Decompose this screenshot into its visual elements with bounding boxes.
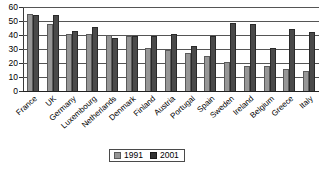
x-label-slot: Belgium [260, 92, 280, 147]
y-tick-label: 50 [9, 17, 18, 26]
bar-group [240, 7, 260, 91]
x-label-slot: Austria [161, 92, 181, 147]
bar-group [181, 7, 201, 91]
bar-group [220, 7, 240, 91]
y-axis: 6050403020100 [0, 0, 23, 98]
bar-2001-portugal [191, 46, 197, 91]
y-tick-label: 20 [9, 59, 18, 68]
bar-2001-belgium [270, 48, 276, 91]
bar-2001-austria [171, 34, 177, 91]
bar-2001-ireland [250, 24, 256, 91]
x-label-slot: Ireland [240, 92, 260, 147]
bar-group [23, 7, 43, 91]
bar-2001-denmark [132, 36, 138, 91]
bars-layer [23, 7, 319, 91]
bar-2001-finland [151, 36, 157, 91]
bar-group [141, 7, 161, 91]
x-label-slot: France [23, 92, 43, 147]
bar-2001-spain [210, 36, 216, 91]
x-label-slot: Italy [299, 92, 319, 147]
bar-2001-italy [309, 32, 315, 91]
bar-2001-sweden [230, 23, 236, 91]
legend-swatch-icon [114, 152, 121, 159]
bar-group [299, 7, 319, 91]
bar-chart: 6050403020100 FranceUKGermanyLuxembourgN… [0, 0, 322, 170]
bar-group [280, 7, 300, 91]
legend-label: 1991 [124, 151, 143, 160]
bar-2001-france [33, 15, 39, 91]
chart-legend: 19912001 [109, 149, 185, 162]
bar-2001-netherlands [112, 38, 118, 91]
bar-group [201, 7, 221, 91]
x-label-slot: Denmark [122, 92, 142, 147]
y-tick-label: 40 [9, 31, 18, 40]
bar-group [62, 7, 82, 91]
legend-swatch-icon [150, 152, 157, 159]
bar-2001-greece [289, 29, 295, 91]
legend-item-1991: 1991 [114, 151, 143, 160]
bar-group [43, 7, 63, 91]
y-tick-label: 10 [9, 73, 18, 82]
bar-2001-uk [53, 15, 59, 91]
x-label-slot: Greece [280, 92, 300, 147]
bar-2001-luxembourg [92, 27, 98, 91]
y-tick-label: 0 [13, 87, 18, 96]
bar-group [102, 7, 122, 91]
bar-group [161, 7, 181, 91]
bar-2001-germany [72, 31, 78, 91]
x-label-slot: Portugal [181, 92, 201, 147]
y-tick-label: 30 [9, 45, 18, 54]
y-tick-label: 60 [9, 3, 18, 12]
x-label-slot: Sweden [220, 92, 240, 147]
bar-group [82, 7, 102, 91]
bar-group [122, 7, 142, 91]
x-label-slot: Finland [141, 92, 161, 147]
x-label-slot: Spain [201, 92, 221, 147]
legend-item-2001: 2001 [150, 151, 179, 160]
x-axis: FranceUKGermanyLuxembourgNetherlandsDenm… [23, 92, 319, 147]
x-axis-label-italy: Italy [298, 94, 315, 111]
legend-label: 2001 [160, 151, 179, 160]
bar-group [260, 7, 280, 91]
